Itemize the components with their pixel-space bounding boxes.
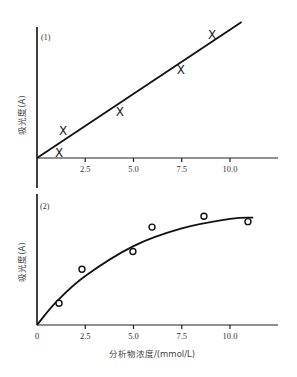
- panel-1-linear-calibration: (1) 吸光度(A) 2.55.07.510.0 XXXXX: [17, 22, 278, 188]
- x-tick-label: 5.0: [128, 164, 139, 174]
- panel-2-nonlinear-calibration: (2) 吸光度(A) 02.55.07.510.0 分析物浓度/(mmol/L): [17, 194, 278, 359]
- data-point-circle-marker: [130, 249, 136, 255]
- x-tick-label: 0: [35, 331, 39, 341]
- chart-canvas: (1) 吸光度(A) 2.55.07.510.0 XXXXX (2) 吸光度(A…: [0, 0, 297, 377]
- x-tick-label: 7.5: [176, 331, 187, 341]
- panel-1-x-ticks: 2.55.07.510.0: [80, 158, 238, 174]
- x-tick-label: 7.5: [176, 164, 187, 174]
- data-point-x-marker: X: [208, 28, 216, 42]
- data-point-x-marker: X: [116, 105, 124, 119]
- data-point-circle-marker: [201, 213, 207, 219]
- panel-2-data-points: [56, 213, 251, 306]
- x-tick-label: 10.0: [223, 164, 238, 174]
- panel-2-fit-curve: [37, 218, 253, 325]
- data-point-circle-marker: [79, 266, 85, 272]
- x-tick-label: 5.0: [128, 331, 139, 341]
- data-point-circle-marker: [245, 219, 251, 225]
- panel-1-data-points: XXXXX: [55, 28, 216, 160]
- x-tick-label: 2.5: [80, 164, 91, 174]
- panel-1-fit-line: [37, 22, 242, 158]
- data-point-circle-marker: [149, 224, 155, 230]
- data-point-circle-marker: [56, 300, 62, 306]
- panel-2-label: (2): [40, 202, 50, 211]
- panel-1-label: (1): [41, 33, 51, 42]
- x-tick-label: 2.5: [80, 331, 91, 341]
- panel-2-y-axis-title: 吸光度(A): [17, 242, 27, 281]
- data-point-x-marker: X: [59, 124, 67, 138]
- x-axis-title: 分析物浓度/(mmol/L): [109, 349, 195, 359]
- data-point-x-marker: X: [177, 63, 185, 77]
- x-tick-label: 10.0: [223, 331, 238, 341]
- panel-1-y-axis-title: 吸光度(A): [17, 95, 27, 134]
- data-point-x-marker: X: [55, 146, 63, 160]
- panel-2-x-ticks: 02.55.07.510.0: [35, 325, 238, 341]
